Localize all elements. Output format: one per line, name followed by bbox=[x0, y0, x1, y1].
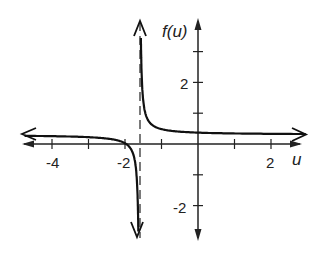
curve-arrow-down-icon bbox=[131, 222, 143, 237]
x-axis bbox=[22, 139, 302, 149]
function-graph: f(u) u -4 -2 2 2 -2 bbox=[0, 0, 317, 255]
curve-arrow-left-icon bbox=[22, 128, 36, 140]
y-axis-arrow-down-icon bbox=[195, 229, 202, 241]
x-axis-arrow-right-icon bbox=[290, 141, 302, 148]
x-tick-label-2: 2 bbox=[266, 154, 274, 171]
x-axis-arrow-left-icon bbox=[22, 141, 34, 148]
x-axis-label: u bbox=[292, 150, 302, 169]
curve-right-branch bbox=[141, 38, 306, 134]
curve-left-branch bbox=[25, 136, 139, 232]
x-tick-label-neg2: -2 bbox=[117, 154, 130, 171]
y-axis bbox=[193, 18, 203, 241]
y-tick-label-2: 2 bbox=[180, 75, 188, 92]
y-axis-arrow-up-icon bbox=[195, 18, 202, 30]
x-tick-label-neg4: -4 bbox=[46, 154, 59, 171]
y-tick-label-neg2: -2 bbox=[173, 199, 186, 216]
y-axis-label: f(u) bbox=[162, 22, 188, 41]
